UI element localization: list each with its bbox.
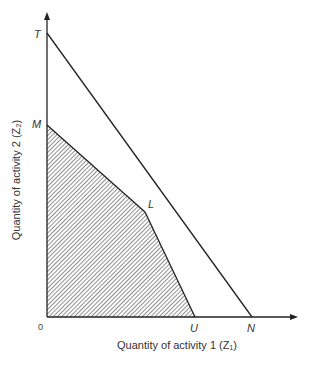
shaded-feasible-region xyxy=(47,125,195,317)
point-label-N: N xyxy=(247,322,255,334)
point-label-M: M xyxy=(32,118,41,130)
y-axis-arrow-icon xyxy=(44,12,50,20)
origin-label: 0 xyxy=(38,322,43,332)
point-label-L: L xyxy=(148,198,154,210)
x-axis-title: Quantity of activity 1 (Z₁) xyxy=(117,339,237,351)
y-axis-title: Quantity of activity 2 (Z₂) xyxy=(10,110,22,250)
point-label-U: U xyxy=(190,322,198,334)
point-label-T: T xyxy=(34,28,41,40)
x-axis-arrow-icon xyxy=(290,314,298,320)
diagram-canvas xyxy=(0,0,310,365)
